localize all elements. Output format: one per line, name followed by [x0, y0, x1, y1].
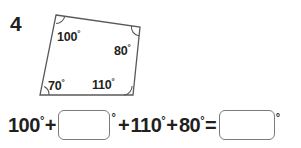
problem-number: 4: [10, 13, 21, 34]
answer-input-1[interactable]: [58, 110, 110, 140]
degree-symbol-icon: °: [77, 29, 80, 38]
equation-operator-plus-3: +: [165, 115, 179, 135]
angle-label-bottom-left: 70°: [48, 79, 65, 93]
equation-term-3: 110°: [131, 115, 166, 135]
degree-symbol-icon: °: [128, 43, 131, 52]
degree-symbol-icon: °: [112, 77, 115, 86]
angle-sum-equation: 100° + ° + 110° + 80° = °: [8, 108, 281, 142]
quadrilateral-figure: 100° 80° 70° 110°: [30, 8, 155, 103]
equation-operator-plus-2: +: [117, 115, 131, 135]
angle-value-top-left: 100: [57, 30, 77, 44]
angle-value-bottom-right: 110: [92, 78, 112, 92]
equation-term-4: 80°: [179, 115, 204, 135]
equation-operator-plus-1: +: [44, 115, 58, 135]
worksheet-problem: 4 100° 80° 70° 110° 100° + ° + 110° + 80…: [0, 0, 301, 148]
answer-blank-1-wrap: °: [58, 110, 115, 140]
equation-term-1: 100°: [8, 115, 44, 135]
equation-operator-equals: =: [204, 115, 218, 135]
degree-symbol-icon: °: [62, 78, 65, 87]
angle-label-bottom-right: 110°: [92, 78, 115, 92]
degree-symbol-icon: °: [276, 112, 280, 123]
answer-input-2[interactable]: [219, 110, 275, 140]
angle-value-top-right: 80: [114, 44, 128, 58]
angle-label-top-right: 80°: [114, 44, 131, 58]
angle-label-top-left: 100°: [57, 30, 80, 44]
degree-symbol-icon: °: [111, 112, 115, 123]
answer-blank-2-wrap: °: [219, 110, 280, 140]
angle-value-bottom-left: 70: [48, 79, 62, 93]
